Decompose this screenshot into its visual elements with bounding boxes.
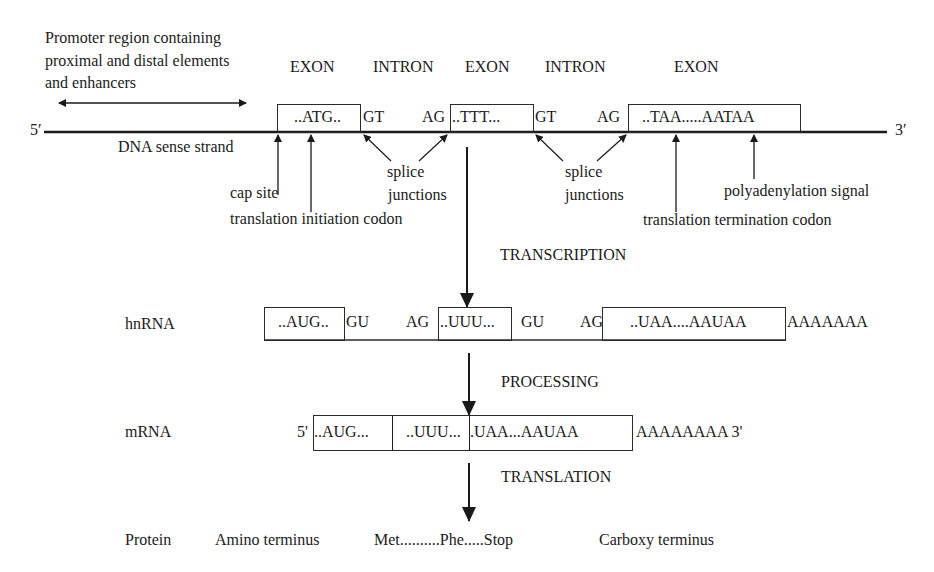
translation-termination-label: translation termination codon <box>643 211 831 229</box>
mrna-poly-a-tail: AAAAAAAA 3' <box>636 423 742 441</box>
hnrna-exon-1-seq: ..AUG.. <box>278 313 329 331</box>
gene-expression-diagram: Promoter region containing proximal and … <box>0 0 934 572</box>
region-label-exon-1: EXON <box>290 58 334 76</box>
dna-exon-3-seq: ..TAA.....AATAA <box>642 108 755 126</box>
hnrna-exon-3-seq: ..UAA....AAUAA <box>630 313 746 331</box>
polyadenylation-label: polyadenylation signal <box>724 182 869 200</box>
hnrna-poly-a-tail: AAAAAAA <box>787 313 868 331</box>
promoter-label-line-1: Promoter region containing <box>45 29 221 47</box>
region-label-exon-3: EXON <box>674 58 718 76</box>
protein-sequence: Met..........Phe.....Stop <box>374 531 513 549</box>
splice-junctions-1-line-2: junctions <box>388 186 447 204</box>
dna-exon-1-seq: ..ATG.. <box>294 108 341 126</box>
promoter-label-line-2: proximal and distal elements <box>45 52 229 70</box>
dna-splice-gt-2: GT <box>535 108 556 126</box>
hnrna-splice-gu-2: GU <box>521 313 544 331</box>
dna-three-prime-label: 3′ <box>895 121 907 139</box>
hnrna-splice-ag-1: AG <box>406 313 429 331</box>
mrna-label: mRNA <box>125 423 171 441</box>
mrna-five-prime-label: 5' <box>297 423 308 441</box>
diagram-lines <box>0 0 934 572</box>
dna-splice-ag-1: AG <box>422 108 445 126</box>
dna-splice-ag-2: AG <box>597 108 620 126</box>
cap-site-label: cap site <box>230 184 278 202</box>
splice-junctions-1-line-1: splice <box>387 163 424 181</box>
hnrna-splice-ag-2: AG <box>580 313 603 331</box>
region-label-intron-2: INTRON <box>545 58 605 76</box>
carboxy-terminus-label: Carboxy terminus <box>599 531 714 549</box>
dna-exon-2-seq: ..TTT... <box>452 108 500 126</box>
splice-junctions-2-line-2: junctions <box>565 186 624 204</box>
translation-initiation-label: translation initiation codon <box>230 210 402 228</box>
hnrna-label: hnRNA <box>125 315 175 333</box>
transcription-label: TRANSCRIPTION <box>500 246 626 264</box>
splice-junction-arrows-1 <box>364 135 447 161</box>
hnrna-exon-2-seq: ..UUU... <box>440 313 495 331</box>
protein-label: Protein <box>125 531 171 549</box>
mrna-segment-3-seq: .UAA...AAUAA <box>470 423 578 441</box>
mrna-divider-1 <box>392 415 393 451</box>
hnrna-splice-gu-1: GU <box>346 313 369 331</box>
splice-junctions-2-line-1: splice <box>565 163 602 181</box>
dna-five-prime-label: 5′ <box>30 121 42 139</box>
amino-terminus-label: Amino terminus <box>215 531 319 549</box>
mrna-segment-2-seq: ..UUU... <box>406 423 461 441</box>
splice-junction-arrows-2 <box>536 135 626 161</box>
dna-splice-gt-1: GT <box>363 108 384 126</box>
promoter-label-line-3: and enhancers <box>45 74 136 92</box>
region-label-intron-1: INTRON <box>373 58 433 76</box>
mrna-segment-1-seq: ..AUG... <box>314 423 369 441</box>
translation-label: TRANSLATION <box>501 468 611 486</box>
processing-label: PROCESSING <box>501 373 599 391</box>
dna-strand-label: DNA sense strand <box>118 138 234 156</box>
region-label-exon-2: EXON <box>465 58 509 76</box>
